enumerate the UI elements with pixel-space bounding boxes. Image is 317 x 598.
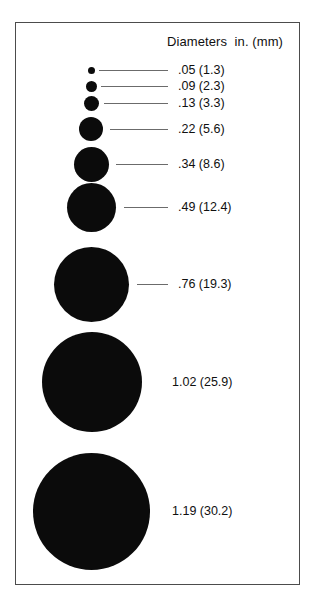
leader-line (137, 284, 168, 285)
diameter-circle (42, 332, 142, 432)
leader-line (116, 164, 168, 165)
diameter-label: .09 (2.3) (178, 79, 225, 93)
diameter-circle (79, 117, 103, 141)
diameter-circle (54, 247, 129, 322)
leader-line (104, 103, 168, 104)
diameter-circle (74, 147, 109, 182)
leader-line (101, 86, 168, 87)
diameter-circle (84, 96, 99, 111)
leader-line (99, 70, 168, 71)
diameter-circle (86, 81, 97, 92)
diameter-circle (67, 183, 116, 232)
diameter-label: 1.02 (25.9) (172, 375, 232, 389)
diameter-label: .22 (5.6) (178, 122, 225, 136)
diameter-label: .34 (8.6) (178, 157, 225, 171)
leader-line (124, 207, 168, 208)
diameter-label: .13 (3.3) (178, 96, 225, 110)
diameter-label: .49 (12.4) (178, 200, 232, 214)
diameter-label: .05 (1.3) (178, 63, 225, 77)
diameter-label: 1.19 (30.2) (172, 504, 232, 518)
diameter-circle (33, 453, 150, 570)
diameter-circle (88, 67, 95, 74)
chart-header-label: Diameters in. (mm) (167, 34, 283, 49)
diameter-chart-figure: Diameters in. (mm) .05 (1.3).09 (2.3).13… (0, 0, 317, 598)
diameter-label: .76 (19.3) (178, 277, 232, 291)
leader-line (110, 129, 168, 130)
